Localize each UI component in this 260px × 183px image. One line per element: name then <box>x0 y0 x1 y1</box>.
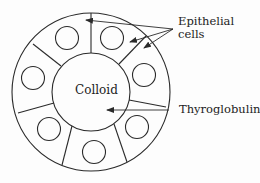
epithelial-arrow-2 <box>130 29 173 42</box>
thyroid-follicle-diagram: Colloid Epithelial cells Thyroglobulin <box>0 0 260 183</box>
epithelial-arrow-3 <box>144 29 173 48</box>
epithelial-arrow-1 <box>86 20 173 29</box>
colloid-label: Colloid <box>75 84 118 97</box>
thyroglobulin-label: Thyroglobulin <box>179 103 260 116</box>
epithelial-label-line2: cells <box>178 28 205 41</box>
